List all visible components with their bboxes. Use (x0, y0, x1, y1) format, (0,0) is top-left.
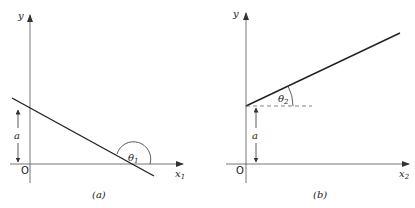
y-axis-label-a: y (17, 10, 24, 21)
intercept-label-b: a (252, 130, 258, 141)
angle-arc-b (288, 86, 293, 106)
y-axis-label-b: y (232, 8, 239, 19)
diagram-canvas: y O a θ1 x1 (a) y O a θ2 x2 (b) (0, 0, 415, 208)
angle-label-b: θ2 (278, 93, 289, 106)
origin-label-a: O (21, 165, 29, 176)
caption-a: (a) (92, 189, 106, 200)
intercept-label-a: a (14, 130, 20, 141)
origin-label-b: O (236, 165, 244, 176)
x-axis-label-a: x1 (175, 168, 185, 181)
caption-b: (b) (313, 189, 327, 200)
line-b (246, 33, 400, 106)
x-axis-label-b: x2 (399, 168, 410, 181)
figure-a: y O a θ1 x1 (a) (10, 10, 185, 200)
figure-b: y O a θ2 x2 (b) (226, 8, 410, 200)
